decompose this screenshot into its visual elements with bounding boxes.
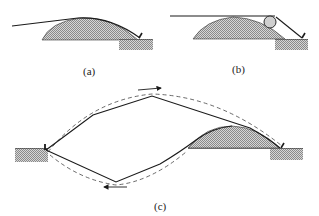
label-b: (b) — [232, 63, 245, 76]
arrow-top-right-icon — [138, 88, 161, 90]
roller-b — [264, 16, 276, 28]
panel-a: (a) — [12, 18, 153, 78]
panel-c: (c) — [15, 88, 303, 213]
dashed-loop-lower-c — [50, 152, 186, 185]
ground-block-left-c — [15, 148, 48, 162]
label-c: (c) — [154, 200, 167, 213]
panel-b: (b) — [170, 16, 308, 76]
ground-block-right-c — [270, 148, 303, 160]
ground-block-a — [119, 39, 153, 50]
label-a: (a) — [83, 65, 96, 78]
anchor-a — [139, 33, 142, 38]
ground-block-b — [275, 39, 308, 50]
anchor-b — [302, 33, 305, 38]
cable-diagram: (a) (b) (c) — [0, 0, 319, 216]
mound-c — [188, 126, 280, 148]
anchor-right-c — [281, 143, 284, 148]
cable-lower-c — [46, 126, 232, 182]
